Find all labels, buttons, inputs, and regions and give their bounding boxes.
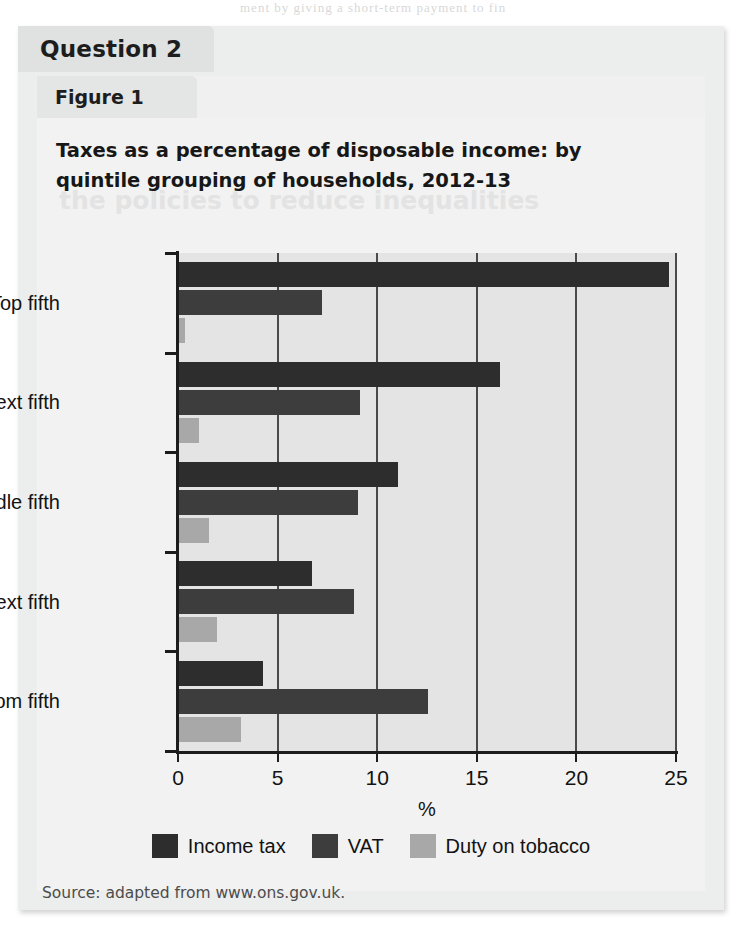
legend-item: VAT: [312, 834, 384, 858]
legend-swatch-income-tax: [152, 834, 178, 858]
figure-label: Figure 1: [55, 86, 144, 108]
page-bleed-text: ment by giving a short-term payment to f…: [240, 0, 710, 16]
question-title: Question 2: [40, 36, 182, 62]
legend-item: Income tax: [152, 834, 286, 858]
legend-swatch-vat: [312, 834, 338, 858]
legend-item: Duty on tobacco: [410, 834, 591, 858]
chart-legend: Income taxVATDuty on tobacco: [0, 834, 742, 858]
figure-body: [37, 118, 705, 891]
figure-card: Figure 1 the policies to reduce inequali…: [37, 76, 705, 891]
question-card: Question 2 Figure 1 the policies to redu…: [18, 26, 724, 910]
legend-label: VAT: [348, 835, 384, 858]
chart-title: Taxes as a percentage of disposable inco…: [56, 136, 636, 196]
legend-swatch-duty-on-tobacco: [410, 834, 436, 858]
legend-label: Income tax: [188, 835, 286, 858]
legend-label: Duty on tobacco: [446, 835, 591, 858]
source-note: Source: adapted from www.ons.gov.uk.: [42, 884, 345, 902]
